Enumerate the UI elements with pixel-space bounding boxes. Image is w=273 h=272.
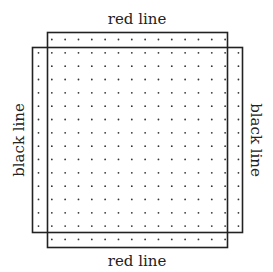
grid-dot xyxy=(198,92,200,94)
grid-dot xyxy=(171,39,173,41)
grid-dot xyxy=(78,172,80,174)
grid-dot xyxy=(144,159,146,161)
grid-dot xyxy=(158,79,160,81)
grid-dot xyxy=(38,92,40,94)
grid-dot xyxy=(118,52,120,54)
grid-dot xyxy=(171,185,173,187)
grid-dot xyxy=(211,132,213,134)
grid-dot xyxy=(91,92,93,94)
grid-dot xyxy=(184,172,186,174)
grid-dot xyxy=(238,105,240,107)
grid-dot xyxy=(38,199,40,201)
grid-dot xyxy=(104,92,106,94)
grid-dot xyxy=(118,185,120,187)
grid-dot xyxy=(158,159,160,161)
grid-dot xyxy=(224,172,226,174)
grid-dot xyxy=(51,225,53,227)
grid-dot xyxy=(211,39,213,41)
grid-dot xyxy=(144,39,146,41)
grid-dot xyxy=(64,199,66,201)
grid-dot xyxy=(211,52,213,54)
grid-dot xyxy=(78,79,80,81)
grid-dot xyxy=(184,119,186,121)
grid-dot xyxy=(118,145,120,147)
grid-dot xyxy=(211,79,213,81)
grid-dot xyxy=(171,79,173,81)
grid-dot xyxy=(238,65,240,67)
grid-dot xyxy=(224,185,226,187)
grid-dot xyxy=(224,119,226,121)
grid-dot xyxy=(238,159,240,161)
grid-dot xyxy=(171,212,173,214)
grid-dot xyxy=(171,172,173,174)
grid-dot xyxy=(118,92,120,94)
grid-dot xyxy=(158,225,160,227)
grid-dot xyxy=(238,92,240,94)
grid-dot xyxy=(144,79,146,81)
grid-dot xyxy=(131,52,133,54)
grid-dot xyxy=(78,65,80,67)
grid-dot xyxy=(38,145,40,147)
grid-dot xyxy=(224,79,226,81)
grid-dot xyxy=(198,172,200,174)
grid-dot xyxy=(158,105,160,107)
grid-dot xyxy=(131,199,133,201)
grid-dot xyxy=(171,119,173,121)
grid-dot xyxy=(64,92,66,94)
grid-dot xyxy=(78,105,80,107)
grid-dot xyxy=(224,225,226,227)
grid-dot xyxy=(171,199,173,201)
grid-dot xyxy=(198,199,200,201)
grid-dot xyxy=(51,79,53,81)
grid-dot xyxy=(171,105,173,107)
grid-dot xyxy=(51,172,53,174)
grid-dot xyxy=(184,52,186,54)
label-top-red-line: red line xyxy=(108,10,167,28)
grid-dot xyxy=(238,185,240,187)
grid-dot xyxy=(78,52,80,54)
grid-dot xyxy=(38,159,40,161)
grid-dot xyxy=(78,239,80,241)
grid-dot xyxy=(104,239,106,241)
grid-dot xyxy=(104,225,106,227)
grid-dot xyxy=(91,199,93,201)
grid-dot xyxy=(184,199,186,201)
grid-dot xyxy=(38,119,40,121)
grid-dot xyxy=(211,172,213,174)
grid-dot xyxy=(158,92,160,94)
grid-dot xyxy=(118,105,120,107)
grid-dot xyxy=(224,212,226,214)
grid-dot xyxy=(211,225,213,227)
grid-dot xyxy=(198,119,200,121)
grid-dot xyxy=(64,52,66,54)
grid-dot xyxy=(64,185,66,187)
grid-dot xyxy=(158,199,160,201)
grid-dot xyxy=(91,119,93,121)
grid-dot xyxy=(91,105,93,107)
grid-dot xyxy=(198,79,200,81)
grid-dot xyxy=(64,65,66,67)
grid-dot xyxy=(158,119,160,121)
grid-dot xyxy=(104,132,106,134)
grid-dot xyxy=(118,65,120,67)
grid-dot xyxy=(64,145,66,147)
grid-dot xyxy=(211,199,213,201)
grid-dot xyxy=(144,225,146,227)
grid-dot xyxy=(171,145,173,147)
grid-dot xyxy=(131,65,133,67)
grid-dot xyxy=(104,119,106,121)
grid-dot xyxy=(144,119,146,121)
grid-dot xyxy=(38,225,40,227)
grid-dot xyxy=(184,92,186,94)
grid-dot xyxy=(51,92,53,94)
grid-dot xyxy=(224,239,226,241)
grid-dot xyxy=(224,39,226,41)
grid-dot xyxy=(51,212,53,214)
grid-dot xyxy=(131,119,133,121)
grid-dot xyxy=(104,212,106,214)
grid-dot xyxy=(184,65,186,67)
grid-dot xyxy=(171,52,173,54)
grid-dot xyxy=(78,39,80,41)
grid-dot xyxy=(158,132,160,134)
grid-dot xyxy=(131,159,133,161)
